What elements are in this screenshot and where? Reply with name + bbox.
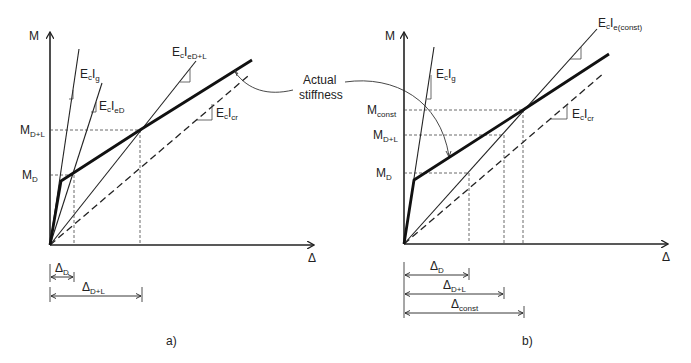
label-ecig: EcIg: [80, 67, 100, 83]
panel-b: M Δ Mconst MD+L MD EcIg EcIe(const) EcIc…: [367, 16, 670, 348]
delta-axis-label: Δ: [308, 251, 316, 265]
panel-a: M Δ MD+L MD EcIg EcIeD EcIeD+L EcIcr Δ: [20, 29, 316, 348]
annotation-line1: Actual: [303, 73, 336, 87]
label-ecicr: EcIcr: [216, 106, 238, 122]
actual-response-curve-b: [404, 54, 609, 244]
eciecd-line: [50, 83, 102, 245]
eciedl-line: [50, 61, 196, 245]
delta-axis-label-b: Δ: [662, 250, 670, 264]
label-eciedl: EcIeD+L: [172, 45, 207, 61]
dim-label-delta-dl: ΔD+L: [82, 280, 105, 296]
dim-label-delta-d-b: ΔD: [430, 259, 444, 275]
tick-mconst: Mconst: [367, 103, 397, 119]
ecicr-slope-triangle: [196, 104, 212, 120]
actual-response-curve: [50, 60, 252, 245]
tick-mdl: MD+L: [20, 123, 45, 139]
label-eciconst-b: EcIe(const): [598, 16, 643, 32]
dim-label-delta-const-b: Δconst: [451, 297, 479, 313]
actual-stiffness-annotation: Actual stiffness: [235, 70, 451, 157]
m-axis-label-b: M: [385, 29, 395, 43]
annotation-line2: stiffness: [299, 88, 343, 102]
dim-label-delta-dl-b: ΔD+L: [443, 278, 466, 294]
dim-label-delta-d: ΔD: [55, 261, 69, 277]
moment-deflection-diagram: M Δ MD+L MD EcIg EcIeD EcIeD+L EcIcr Δ: [0, 0, 691, 363]
label-ecicr-b: EcIcr: [572, 107, 594, 123]
caption-b: b): [522, 334, 533, 348]
caption-a: a): [166, 334, 177, 348]
m-axis-label: M: [29, 29, 39, 43]
ecicr-line-b: [404, 73, 604, 244]
leader-b: [345, 81, 449, 156]
ecicr-line: [50, 76, 248, 245]
eciconst-line-b: [404, 29, 597, 244]
tick-mdl-b: MD+L: [373, 128, 398, 144]
leader-a: [235, 72, 293, 92]
tick-md: MD: [22, 168, 38, 184]
tick-md-b: MD: [376, 166, 392, 182]
label-eciecd: EcIeD: [99, 99, 125, 115]
label-ecig-b: EcIg: [436, 67, 456, 83]
